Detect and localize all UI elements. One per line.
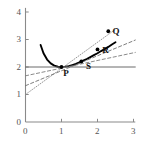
data-point-R bbox=[96, 48, 100, 52]
point-label-R: R bbox=[102, 46, 109, 55]
plot-svg bbox=[0, 0, 147, 145]
series-secant-PQ bbox=[26, 28, 118, 95]
y-tick-label-1: 1 bbox=[17, 90, 22, 99]
point-label-P: P bbox=[63, 69, 69, 78]
data-point-Q bbox=[106, 29, 110, 33]
figure-canvas: 012301234PQRS bbox=[0, 0, 147, 145]
x-tick-label-2: 2 bbox=[95, 127, 100, 136]
y-tick-label-3: 3 bbox=[17, 35, 22, 44]
y-tick-label-2: 2 bbox=[17, 63, 22, 72]
x-tick-label-1: 1 bbox=[59, 127, 64, 136]
y-tick-label-4: 4 bbox=[17, 8, 22, 17]
point-label-Q: Q bbox=[113, 27, 120, 36]
series-secant-PS bbox=[26, 52, 136, 75]
point-label-S: S bbox=[86, 62, 91, 71]
x-tick-label-0: 0 bbox=[23, 127, 28, 136]
y-tick-label-0: 0 bbox=[17, 118, 22, 127]
data-point-S bbox=[79, 60, 83, 64]
x-tick-label-3: 3 bbox=[131, 127, 136, 136]
